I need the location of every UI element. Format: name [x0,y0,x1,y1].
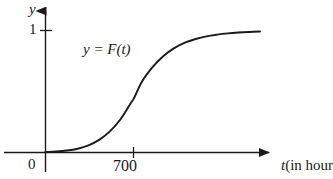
x-axis-unit: (in hour [285,157,333,173]
x-axis-label: t(in hour [281,158,333,173]
y-axis-label: y [29,2,36,17]
y-tick-label-one: 1 [29,22,37,37]
origin-label: 0 [28,157,36,172]
x-tick-label-700: 700 [113,158,137,174]
sigmoid-curve [46,31,261,152]
curve-equation-label: y = F(t) [83,42,131,57]
